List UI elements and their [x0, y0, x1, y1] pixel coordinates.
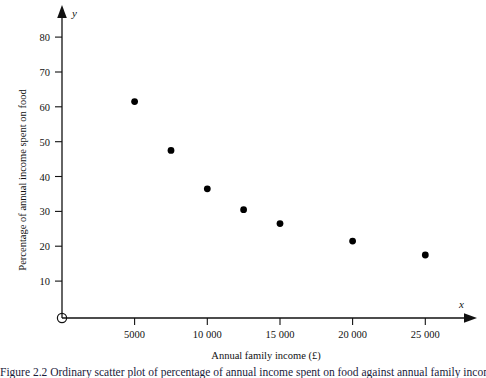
- x-axis-arrowhead: [464, 313, 477, 323]
- y-axis-title: Percentage of annual income spent on foo…: [17, 89, 28, 271]
- y-tick-label-70: 70: [40, 67, 51, 78]
- y-tick-label-40: 40: [40, 172, 51, 183]
- y-tick-label-80: 80: [40, 32, 51, 43]
- x-axis-title: Annual family income (£): [211, 350, 321, 362]
- data-points: [131, 98, 428, 258]
- x-tick-label-20000: 20 000: [338, 329, 367, 340]
- data-point: [277, 220, 284, 227]
- y-axis: [57, 5, 67, 318]
- figure-caption: Figure 2.2 Ordinary scatter plot of perc…: [0, 366, 486, 378]
- data-point: [422, 252, 429, 259]
- data-point: [240, 206, 247, 213]
- y-tick-label-60: 60: [40, 102, 51, 113]
- x-axis-ticks: 5000 10 000 15 000 20 000 25 000: [124, 318, 440, 340]
- data-point: [131, 98, 138, 105]
- y-axis-letter: y: [71, 7, 77, 19]
- data-point: [349, 238, 356, 245]
- x-tick-label-5000: 5000: [124, 329, 145, 340]
- data-point: [204, 185, 211, 192]
- y-tick-label-10: 10: [40, 276, 51, 287]
- x-tick-label-10000: 10 000: [193, 329, 222, 340]
- x-tick-label-25000: 25 000: [411, 329, 440, 340]
- x-tick-label-15000: 15 000: [266, 329, 295, 340]
- data-point: [168, 147, 175, 154]
- y-axis-arrowhead: [57, 5, 67, 18]
- scatter-plot-svg: y x 10 20 30 40 50 60 70 80: [0, 0, 486, 378]
- y-tick-label-30: 30: [40, 206, 51, 217]
- y-axis-ticks: 10 20 30 40 50 60 70 80: [40, 32, 63, 287]
- y-tick-label-50: 50: [40, 137, 51, 148]
- x-axis: [62, 313, 477, 323]
- x-axis-letter: x: [458, 298, 464, 310]
- scatter-plot-figure: y x 10 20 30 40 50 60 70 80: [0, 0, 486, 378]
- y-tick-label-20: 20: [40, 241, 51, 252]
